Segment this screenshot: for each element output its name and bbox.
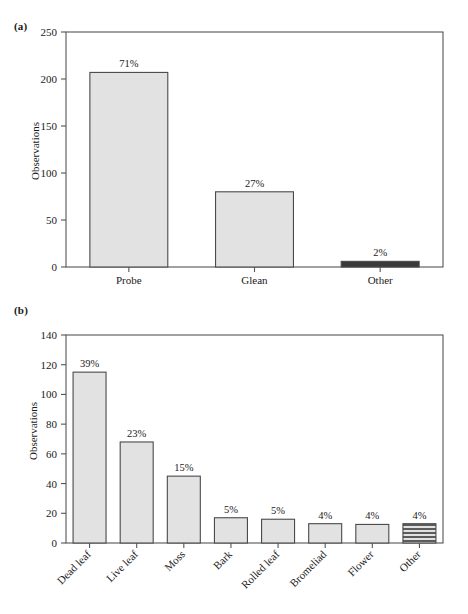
y-tick-label: 0 bbox=[52, 537, 58, 549]
x-tick-label: Flower bbox=[345, 548, 376, 579]
bar bbox=[120, 442, 153, 543]
bar-data-label: 4% bbox=[412, 510, 426, 521]
x-tick-label: Other bbox=[397, 548, 423, 574]
x-tick-label: Bromeliad bbox=[287, 548, 329, 590]
x-tick-label: Moss bbox=[162, 548, 187, 573]
bar-data-label: 27% bbox=[245, 178, 265, 189]
bar bbox=[216, 192, 294, 267]
panel-a-plot: 05010015020025071%Probe27%Glean2%Other bbox=[0, 0, 468, 300]
x-tick-label: Probe bbox=[116, 274, 142, 286]
x-tick-label: Dead leaf bbox=[54, 548, 93, 587]
bar-data-label: 5% bbox=[224, 504, 238, 515]
panel-a-y-axis-title: Observations bbox=[29, 106, 41, 196]
panel-b-plot: 02040608010012014039%Dead leaf23%Live le… bbox=[0, 300, 468, 614]
bar bbox=[403, 524, 436, 543]
y-tick-label: 100 bbox=[41, 388, 58, 400]
panel-a-tag: (a) bbox=[14, 20, 27, 32]
y-tick-label: 0 bbox=[52, 261, 58, 273]
bar-data-label: 39% bbox=[80, 358, 100, 369]
y-tick-label: 150 bbox=[41, 120, 58, 132]
bar-data-label: 4% bbox=[365, 510, 379, 521]
bar-data-label: 4% bbox=[318, 510, 332, 521]
y-tick-label: 60 bbox=[46, 448, 58, 460]
y-tick-label: 80 bbox=[46, 418, 58, 430]
bar bbox=[90, 72, 168, 267]
bar-data-label: 23% bbox=[127, 428, 147, 439]
bar bbox=[341, 261, 419, 267]
bar-data-label: 5% bbox=[271, 505, 285, 516]
bar bbox=[214, 518, 247, 543]
x-tick-label: Live leaf bbox=[104, 548, 141, 585]
panel-b: (b) Observations 02040608010012014039%De… bbox=[0, 300, 468, 614]
y-tick-label: 120 bbox=[41, 359, 58, 371]
bar-data-label: 2% bbox=[373, 247, 387, 258]
panel-b-y-axis-title: Observations bbox=[27, 386, 39, 476]
panel-a: (a) Observations 05010015020025071%Probe… bbox=[0, 0, 468, 300]
x-tick-label: Other bbox=[368, 274, 393, 286]
y-tick-label: 40 bbox=[46, 478, 58, 490]
bar bbox=[73, 372, 106, 543]
bar-data-label: 71% bbox=[119, 58, 139, 69]
bar bbox=[356, 524, 389, 543]
y-tick-label: 100 bbox=[41, 167, 58, 179]
bar bbox=[309, 524, 342, 543]
figure-bar-charts: (a) Observations 05010015020025071%Probe… bbox=[0, 0, 468, 614]
y-tick-label: 20 bbox=[46, 507, 58, 519]
bar bbox=[262, 519, 295, 543]
panel-b-tag: (b) bbox=[14, 304, 28, 316]
bar bbox=[167, 476, 200, 543]
x-tick-label: Rolled leaf bbox=[239, 548, 282, 591]
bar-data-label: 15% bbox=[174, 462, 194, 473]
y-tick-label: 200 bbox=[41, 73, 58, 85]
y-tick-label: 250 bbox=[41, 26, 58, 38]
y-tick-label: 50 bbox=[46, 214, 58, 226]
x-tick-label: Bark bbox=[211, 548, 235, 572]
y-tick-label: 140 bbox=[41, 329, 58, 341]
x-tick-label: Glean bbox=[241, 274, 268, 286]
